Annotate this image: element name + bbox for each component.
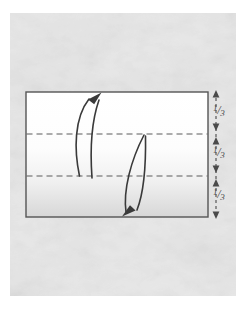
measure-label-third-3: 1/3 [213,187,224,202]
fraction-denominator: 3 [220,108,224,118]
paper-sheet-rectangle [26,92,208,217]
figure-root: 1/3 1/3 1/3 [0,0,247,319]
measure-arrow-1-down [213,124,220,132]
fraction-denominator: 3 [220,150,224,160]
measure-label-third-1: 1/3 [213,103,224,118]
fold-diagram [0,0,247,319]
measure-arrow-bottom [213,212,220,220]
fraction-denominator: 3 [220,192,224,202]
measure-arrow-top [213,90,220,98]
measure-label-third-2: 1/3 [213,145,224,160]
measure-arrow-2-up [213,137,220,145]
measure-arrow-2-down [213,166,220,174]
measure-arrow-3-up [213,179,220,187]
